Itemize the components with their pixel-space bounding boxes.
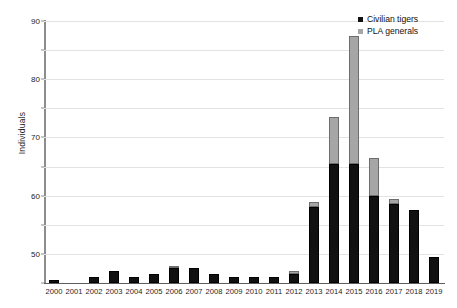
gridline: 0 xyxy=(44,283,444,284)
x-axis-tick-label: 2004 xyxy=(126,287,143,296)
bar-group[interactable] xyxy=(429,257,439,283)
bar-segment-civilian-tigers[interactable] xyxy=(289,274,299,283)
plot-area: 0102030405060708090 xyxy=(44,21,444,283)
bar-segment-civilian-tigers[interactable] xyxy=(189,268,199,283)
x-axis-tick-label: 2009 xyxy=(226,287,243,296)
bar-segment-civilian-tigers[interactable] xyxy=(229,277,239,283)
bar-group[interactable] xyxy=(49,280,59,283)
bar-segment-civilian-tigers[interactable] xyxy=(129,277,139,283)
bar-group[interactable] xyxy=(309,202,319,284)
legend-swatch-icon xyxy=(358,17,363,22)
bar-chart: Individuals 0102030405060708090 20002001… xyxy=(0,0,457,308)
y-axis-tick-label: 50 xyxy=(31,249,40,258)
bar-group[interactable] xyxy=(129,277,139,283)
x-axis-tick-label: 2005 xyxy=(146,287,163,296)
bar-segment-civilian-tigers[interactable] xyxy=(169,268,179,283)
bar-segment-civilian-tigers[interactable] xyxy=(309,207,319,283)
bar-segment-civilian-tigers[interactable] xyxy=(389,204,399,283)
bar-group[interactable] xyxy=(249,277,259,283)
bar-group[interactable] xyxy=(229,277,239,283)
x-axis-tick-label: 2003 xyxy=(106,287,123,296)
x-axis-tick-label: 2014 xyxy=(326,287,343,296)
bar-segment-civilian-tigers[interactable] xyxy=(349,164,359,283)
x-axis-tick-label: 2000 xyxy=(46,287,63,296)
bar-group[interactable] xyxy=(169,266,179,283)
bar-segment-civilian-tigers[interactable] xyxy=(369,196,379,283)
chart-legend: Civilian tigersPLA generals xyxy=(358,14,418,36)
bar-segment-civilian-tigers[interactable] xyxy=(409,210,419,283)
bar-segment-civilian-tigers[interactable] xyxy=(109,271,119,283)
x-axis-tick-label: 2016 xyxy=(366,287,383,296)
bar-segment-civilian-tigers[interactable] xyxy=(209,274,219,283)
y-axis-tick-label: 70 xyxy=(31,133,40,142)
bar-segment-civilian-tigers[interactable] xyxy=(429,257,439,283)
x-axis-tick-label: 2010 xyxy=(246,287,263,296)
x-axis-tick-label: 2015 xyxy=(346,287,363,296)
bar-segment-civilian-tigers[interactable] xyxy=(89,277,99,283)
bar-group[interactable] xyxy=(369,158,379,283)
bar-group[interactable] xyxy=(209,274,219,283)
y-axis-tick-label: 60 xyxy=(31,191,40,200)
bar-segment-civilian-tigers[interactable] xyxy=(249,277,259,283)
bar-group[interactable] xyxy=(289,271,299,283)
bar-segment-civilian-tigers[interactable] xyxy=(149,274,159,283)
x-axis-tick-label: 2007 xyxy=(186,287,203,296)
x-axis-tick-label: 2017 xyxy=(386,287,403,296)
bar-segment-pla-generals[interactable] xyxy=(369,158,379,196)
bar-segment-pla-generals[interactable] xyxy=(349,36,359,164)
x-axis-tick-label: 2012 xyxy=(286,287,303,296)
bar-group[interactable] xyxy=(149,274,159,283)
legend-swatch-icon xyxy=(358,29,363,34)
x-axis-tick-label: 2019 xyxy=(426,287,443,296)
y-axis-title: Individuals xyxy=(17,73,27,193)
legend-label: PLA generals xyxy=(367,26,418,36)
x-axis-tick-label: 2013 xyxy=(306,287,323,296)
bar-group[interactable] xyxy=(189,268,199,283)
y-axis-tick-label: 80 xyxy=(31,75,40,84)
bar-segment-civilian-tigers[interactable] xyxy=(269,277,279,283)
bar-group[interactable] xyxy=(329,117,339,283)
x-axis-tick-label: 2001 xyxy=(66,287,83,296)
x-axis-tick-label: 2011 xyxy=(266,287,282,296)
x-axis-tick-label: 2002 xyxy=(86,287,103,296)
x-axis-tick-labels: 2000200120022003200420052006200720082009… xyxy=(44,287,444,303)
x-axis-tick-label: 2018 xyxy=(406,287,423,296)
bar-segment-civilian-tigers[interactable] xyxy=(329,164,339,283)
legend-item[interactable]: Civilian tigers xyxy=(358,14,418,24)
bar-segment-civilian-tigers[interactable] xyxy=(49,280,59,283)
bars-layer xyxy=(44,21,444,283)
bar-segment-pla-generals[interactable] xyxy=(329,117,339,164)
legend-label: Civilian tigers xyxy=(367,14,418,24)
bar-group[interactable] xyxy=(409,210,419,283)
y-axis-tick-label: 90 xyxy=(31,17,40,26)
bar-group[interactable] xyxy=(109,271,119,283)
x-axis-tick-label: 2006 xyxy=(166,287,183,296)
bar-group[interactable] xyxy=(349,36,359,283)
legend-item[interactable]: PLA generals xyxy=(358,26,418,36)
bar-group[interactable] xyxy=(269,277,279,283)
bar-group[interactable] xyxy=(389,199,399,283)
x-axis-tick-label: 2008 xyxy=(206,287,223,296)
bar-group[interactable] xyxy=(89,277,99,283)
